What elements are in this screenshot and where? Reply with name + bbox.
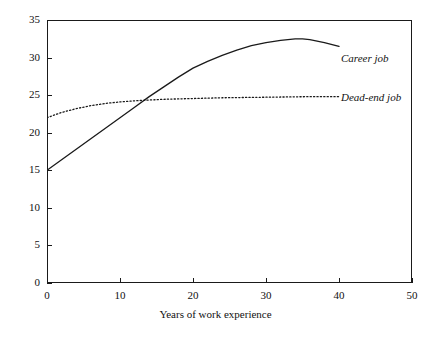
x-axis-tick-label: 10: [105, 290, 135, 301]
y-axis-tick-label: 15: [10, 164, 40, 175]
y-axis-tick-label: 10: [10, 202, 40, 213]
x-axis-tick-mark: [339, 278, 340, 283]
y-axis-tick-mark: [47, 58, 52, 59]
y-axis-tick-label: 0: [10, 277, 40, 288]
y-axis-tick-label: 5: [10, 239, 40, 250]
y-axis-tick-mark: [47, 245, 52, 246]
y-axis-tick-label: 25: [10, 89, 40, 100]
x-axis-tick-mark: [193, 278, 194, 283]
y-axis-tick-label: 35: [10, 14, 40, 25]
x-axis-tick-mark: [120, 278, 121, 283]
x-axis-tick-mark: [266, 278, 267, 283]
series-line-dead-end-job: [47, 97, 339, 118]
x-axis-tick-mark: [47, 278, 48, 283]
series-annotation-dead-end-job: Dead-end job: [341, 91, 401, 103]
series-annotation-career-job: Career job: [341, 52, 389, 64]
y-axis-tick-mark: [47, 170, 52, 171]
x-axis-tick-label: 40: [324, 290, 354, 301]
y-axis-tick-mark: [47, 208, 52, 209]
y-axis-tick-label: 20: [10, 127, 40, 138]
y-axis-tick-mark: [47, 95, 52, 96]
chart-screenshot: 05101520253035 01020304050 Years of work…: [0, 0, 431, 341]
y-axis-tick-mark: [47, 20, 52, 21]
x-axis-tick-label: 0: [32, 290, 62, 301]
x-axis-title: Years of work experience: [0, 308, 431, 320]
x-axis-tick-label: 50: [397, 290, 427, 301]
y-axis-tick-mark: [47, 283, 52, 284]
x-axis-tick-label: 20: [178, 290, 208, 301]
x-axis-tick-mark: [412, 278, 413, 283]
x-axis-tick-label: 30: [251, 290, 281, 301]
series-line-career-job: [47, 39, 339, 171]
y-axis-tick-label: 30: [10, 52, 40, 63]
y-axis-tick-mark: [47, 133, 52, 134]
